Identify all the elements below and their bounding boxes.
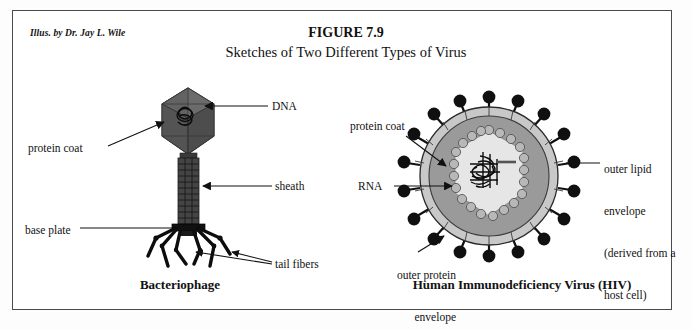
figure-root: Illus. by Dr. Jay L. Wile FIGURE 7.9 Ske… (0, 0, 692, 330)
label-outer-lipid-line2: envelope (604, 204, 676, 218)
caption-bacteriophage: Bacteriophage (40, 278, 320, 293)
label-outer-lipid-envelope: outer lipid envelope (derived from a hos… (604, 134, 676, 330)
label-rna: RNA (358, 180, 382, 193)
hiv-virion (398, 91, 581, 263)
label-dna: DNA (272, 100, 297, 113)
label-outer-lipid-line1: outer lipid (604, 162, 676, 176)
label-base-plate: base plate (25, 224, 71, 237)
label-protein-coat-hiv: protein coat (350, 120, 405, 133)
label-tail-fibers: tail fibers (275, 258, 319, 271)
label-outer-lipid-line3: (derived from a (604, 246, 676, 260)
label-outer-protein-line2: envelope (370, 310, 456, 324)
caption-hiv: Human Immunodeficiency Virus (HIV) (372, 278, 672, 293)
label-protein-coat-phage: protein coat (28, 142, 83, 155)
label-sheath: sheath (275, 180, 304, 193)
